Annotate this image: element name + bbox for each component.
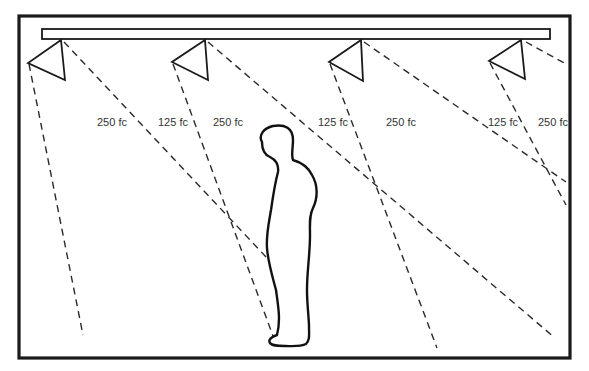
illuminance-label-125fc: 125 fc <box>158 117 188 128</box>
light-fixture-3 <box>329 40 566 348</box>
spotlight-icon <box>172 40 208 80</box>
illuminance-label-125fc: 125 fc <box>488 117 518 128</box>
spotlight-icon <box>329 40 363 81</box>
light-beam <box>29 64 83 335</box>
light-fixture-1 <box>28 40 267 335</box>
light-beam <box>330 64 437 348</box>
illuminance-label-125fc: 125 fc <box>318 117 348 128</box>
human-silhouette <box>261 126 317 347</box>
light-beam <box>490 63 566 205</box>
light-fixture-2 <box>172 40 555 338</box>
spotlight-icon <box>489 40 525 79</box>
illuminance-label-250fc: 250 fc <box>213 117 243 128</box>
lighting-diagram <box>0 0 589 371</box>
room-frame <box>19 16 570 358</box>
light-beam <box>64 42 267 258</box>
light-beam <box>173 64 273 336</box>
illuminance-label-250fc: 250 fc <box>538 117 568 128</box>
illuminance-label-250fc: 250 fc <box>97 117 127 128</box>
illuminance-label-250fc: 250 fc <box>386 117 416 128</box>
light-beam <box>364 42 566 182</box>
spotlight-icon <box>28 40 65 80</box>
light-beam <box>526 42 566 64</box>
ceiling-track <box>42 29 550 39</box>
